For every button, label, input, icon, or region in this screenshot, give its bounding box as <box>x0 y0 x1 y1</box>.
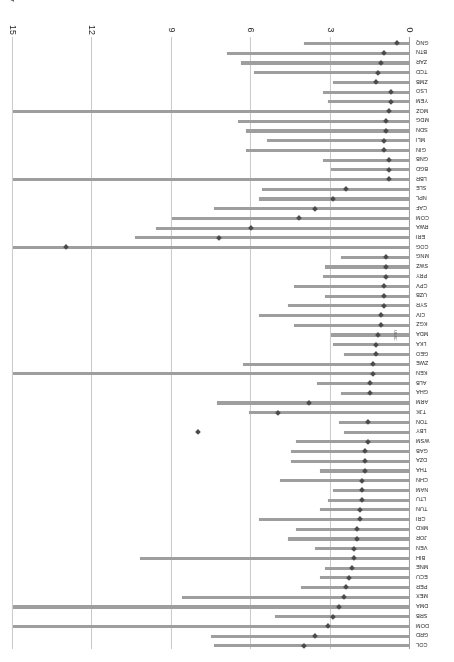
bar-1980 <box>241 61 410 64</box>
x-tick-label: 12 <box>87 25 97 35</box>
inline-annotation: UMIC <box>393 330 398 341</box>
x-tick-9: 9 <box>169 25 174 35</box>
chart-row <box>13 299 410 309</box>
bar-1980 <box>275 615 410 618</box>
chart-row <box>13 338 410 348</box>
x-tick-12: 12 <box>87 25 97 35</box>
marker-2007 <box>370 362 375 367</box>
bar-1980 <box>328 499 410 502</box>
marker-2007 <box>386 158 391 163</box>
bar-1980 <box>323 91 410 94</box>
category-label: WSM <box>416 435 429 445</box>
bar-1980 <box>291 460 410 463</box>
category-label: SDN <box>416 124 428 134</box>
category-label: CIV <box>416 309 425 319</box>
category-label: UZB <box>416 290 427 300</box>
chart-row <box>13 212 410 222</box>
marker-2007 <box>365 420 370 425</box>
x-tick-label: 6 <box>246 27 256 32</box>
chart-row <box>13 484 410 494</box>
marker-2007 <box>373 352 378 357</box>
bar-1980 <box>315 547 410 550</box>
category-label: ECU <box>416 571 428 581</box>
marker-2007 <box>386 109 391 114</box>
category-label: ALB <box>416 377 427 387</box>
chart-row <box>13 571 410 581</box>
category-label: TCD <box>416 66 427 76</box>
chart-row <box>13 183 410 193</box>
chart-row <box>13 396 410 406</box>
x-tick-label: 15 <box>8 25 18 35</box>
category-label: MNG <box>416 251 429 261</box>
bar-1980 <box>13 246 410 249</box>
chart-row <box>13 173 410 183</box>
chart-row <box>13 474 410 484</box>
bar-1980 <box>217 401 410 404</box>
category-label: BIH <box>416 552 425 562</box>
chart-row <box>13 552 410 562</box>
category-label: ERI <box>416 231 425 241</box>
x-tick-0: 0 <box>407 25 412 35</box>
bar-1980 <box>262 188 410 191</box>
bar-1980 <box>341 256 410 259</box>
category-label: GNQ <box>416 37 429 47</box>
marker-2007 <box>349 566 354 571</box>
category-label: TON <box>416 416 428 426</box>
marker-2007 <box>394 41 399 46</box>
chart-row <box>13 406 410 416</box>
bar-1980 <box>333 489 410 492</box>
marker-2007 <box>381 51 386 56</box>
category-label: BTN <box>416 47 427 57</box>
category-axis-labels: COLGRDDOMSRBDMAMEXPERECUMNEBIHVENJORMKDC… <box>414 37 454 649</box>
bar-1980 <box>288 304 410 307</box>
bar-1980 <box>212 635 411 638</box>
bar-1980 <box>328 100 410 103</box>
chart-row <box>13 562 410 572</box>
chart-row <box>13 328 410 338</box>
bar-1980 <box>214 644 410 647</box>
category-label: TUN <box>416 503 427 513</box>
chart-row <box>13 124 410 134</box>
marker-2007 <box>355 527 360 532</box>
bar-1980 <box>323 275 410 278</box>
category-label: SYR <box>416 299 427 309</box>
bar-1980 <box>317 382 410 385</box>
category-label: NAM <box>416 484 428 494</box>
bar-1980 <box>325 567 410 570</box>
bar-1980 <box>182 596 410 599</box>
chart-figure: (C/X) 1980 (C/X) 2007 UMIC COLGRDDOMSRBD… <box>0 0 454 662</box>
bar-1980 <box>156 227 410 230</box>
bar-1980 <box>294 285 410 288</box>
chart-row <box>13 154 410 164</box>
chart-row <box>13 455 410 465</box>
x-tick-label: 9 <box>167 27 177 32</box>
chart-row <box>13 416 410 426</box>
category-label: MDG <box>416 115 429 125</box>
chart-row <box>13 95 410 105</box>
category-label: ZAR <box>416 56 427 66</box>
bar-1980 <box>140 557 410 560</box>
bar-1980 <box>296 440 410 443</box>
chart-row <box>13 513 410 523</box>
category-label: DMA <box>416 600 428 610</box>
category-label: COL <box>416 639 427 649</box>
category-label: LBY <box>416 426 427 436</box>
chart-row <box>13 620 410 630</box>
category-label: BGD <box>416 163 428 173</box>
category-label: MKD <box>416 523 428 533</box>
bar-1980 <box>172 217 410 220</box>
chart-row <box>13 144 410 154</box>
category-label: LKA <box>416 338 427 348</box>
chart-row <box>13 435 410 445</box>
marker-2007 <box>381 303 386 308</box>
category-label: KGZ <box>416 319 427 329</box>
chart-row <box>13 523 410 533</box>
chart-row <box>13 134 410 144</box>
chart-row <box>13 56 410 66</box>
bar-1980 <box>320 508 410 511</box>
bar-1980 <box>325 265 410 268</box>
marker-2007 <box>365 439 370 444</box>
chart-row <box>13 309 410 319</box>
category-label: COM <box>416 212 429 222</box>
chart-row <box>13 105 410 115</box>
